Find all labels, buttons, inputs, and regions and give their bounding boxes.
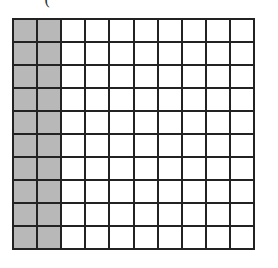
empty-cell <box>231 89 253 110</box>
empty-cell <box>110 112 132 133</box>
empty-cell <box>231 181 253 202</box>
shaded-cell <box>38 20 60 41</box>
empty-cell <box>231 204 253 225</box>
shaded-cell <box>14 135 36 156</box>
empty-cell <box>159 204 181 225</box>
empty-cell <box>110 204 132 225</box>
empty-cell <box>231 20 253 41</box>
empty-cell <box>207 204 229 225</box>
empty-cell <box>135 158 157 179</box>
shaded-cell <box>38 181 60 202</box>
hundred-grid <box>12 18 255 250</box>
empty-cell <box>183 89 205 110</box>
empty-cell <box>110 135 132 156</box>
empty-cell <box>135 135 157 156</box>
empty-cell <box>62 66 84 87</box>
empty-cell <box>207 227 229 248</box>
empty-cell <box>159 43 181 64</box>
empty-cell <box>207 135 229 156</box>
shaded-cell <box>38 66 60 87</box>
empty-cell <box>86 112 108 133</box>
empty-cell <box>62 158 84 179</box>
empty-cell <box>207 43 229 64</box>
empty-cell <box>135 227 157 248</box>
empty-cell <box>135 89 157 110</box>
shaded-cell <box>14 112 36 133</box>
empty-cell <box>159 181 181 202</box>
shaded-cell <box>38 204 60 225</box>
shaded-cell <box>38 89 60 110</box>
empty-cell <box>183 135 205 156</box>
empty-cell <box>86 43 108 64</box>
empty-cell <box>62 227 84 248</box>
empty-cell <box>86 89 108 110</box>
empty-cell <box>86 181 108 202</box>
empty-cell <box>231 112 253 133</box>
empty-cell <box>62 89 84 110</box>
shaded-cell <box>38 135 60 156</box>
empty-cell <box>207 158 229 179</box>
empty-cell <box>231 43 253 64</box>
empty-cell <box>207 181 229 202</box>
empty-cell <box>86 20 108 41</box>
empty-cell <box>183 204 205 225</box>
empty-cell <box>62 181 84 202</box>
empty-cell <box>86 227 108 248</box>
empty-cell <box>86 204 108 225</box>
empty-cell <box>62 43 84 64</box>
shaded-cell <box>14 43 36 64</box>
cropped-glyph: ( <box>44 0 50 9</box>
shaded-cell <box>38 112 60 133</box>
empty-cell <box>86 66 108 87</box>
empty-cell <box>159 20 181 41</box>
shaded-cell <box>14 89 36 110</box>
empty-cell <box>62 204 84 225</box>
empty-cell <box>135 181 157 202</box>
empty-cell <box>135 43 157 64</box>
empty-cell <box>159 66 181 87</box>
empty-cell <box>159 227 181 248</box>
empty-cell <box>110 43 132 64</box>
shaded-cell <box>14 181 36 202</box>
empty-cell <box>207 112 229 133</box>
empty-cell <box>62 112 84 133</box>
empty-cell <box>183 20 205 41</box>
empty-cell <box>110 20 132 41</box>
empty-cell <box>183 112 205 133</box>
empty-cell <box>62 135 84 156</box>
empty-cell <box>110 227 132 248</box>
empty-cell <box>159 89 181 110</box>
empty-cell <box>159 135 181 156</box>
shaded-cell <box>38 227 60 248</box>
empty-cell <box>62 20 84 41</box>
empty-cell <box>207 20 229 41</box>
empty-cell <box>135 20 157 41</box>
shaded-cell <box>14 20 36 41</box>
empty-cell <box>135 66 157 87</box>
empty-cell <box>159 158 181 179</box>
shaded-cell <box>14 158 36 179</box>
empty-cell <box>110 181 132 202</box>
empty-cell <box>110 89 132 110</box>
empty-cell <box>110 158 132 179</box>
empty-cell <box>183 158 205 179</box>
empty-cell <box>183 66 205 87</box>
empty-cell <box>110 66 132 87</box>
shaded-cell <box>14 66 36 87</box>
shaded-cell <box>14 204 36 225</box>
shaded-cell <box>38 158 60 179</box>
empty-cell <box>135 112 157 133</box>
empty-cell <box>183 227 205 248</box>
empty-cell <box>159 112 181 133</box>
empty-cell <box>231 135 253 156</box>
empty-cell <box>231 66 253 87</box>
empty-cell <box>207 89 229 110</box>
empty-cell <box>86 135 108 156</box>
empty-cell <box>183 181 205 202</box>
empty-cell <box>135 204 157 225</box>
shaded-cell <box>38 43 60 64</box>
empty-cell <box>207 66 229 87</box>
shaded-cell <box>14 227 36 248</box>
empty-cell <box>231 227 253 248</box>
empty-cell <box>231 158 253 179</box>
